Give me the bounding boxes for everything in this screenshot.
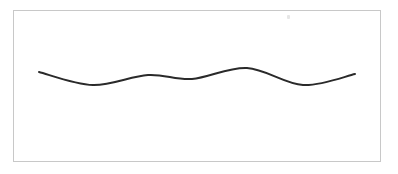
wavy-line [39,68,355,85]
wavy-line-diagram [0,0,398,174]
